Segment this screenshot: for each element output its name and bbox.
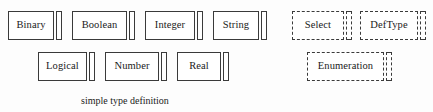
node-enumeration-box: Enumeration [307,52,384,81]
node-binary[interactable]: Binary [8,11,62,40]
node-select[interactable]: Select [292,11,352,40]
node-logical-tab [89,52,95,81]
node-logical-box: Logical [38,52,87,81]
node-string-label: String [223,20,249,31]
simple-type-definition-group: Binary Boolean Integer String Logic [0,0,250,112]
node-integer-label: Integer [155,20,185,31]
node-integer-tab [197,11,203,40]
node-deftype[interactable]: DefType [360,11,426,40]
node-number-tab [161,52,167,81]
type-definition-group: Select DefType Enumeration type definiti… [275,0,433,112]
node-real[interactable]: Real [177,52,229,81]
node-number-box: Number [105,52,159,81]
node-select-tab [346,11,352,40]
node-select-box: Select [292,11,344,40]
node-string-box: String [213,11,259,40]
node-binary-box: Binary [8,11,54,40]
node-logical-label: Logical [46,61,79,72]
node-deftype-box: DefType [360,11,418,40]
node-number[interactable]: Number [105,52,167,81]
node-integer[interactable]: Integer [145,11,203,40]
node-real-box: Real [177,52,221,81]
node-integer-box: Integer [145,11,195,40]
simple-type-definition-caption: simple type definition [0,96,250,106]
node-binary-tab [56,11,62,40]
type-definition-diagram: Binary Boolean Integer String Logic [0,0,433,112]
node-boolean-label: Boolean [82,20,118,31]
node-boolean-box: Boolean [72,11,127,40]
node-string-tab [261,11,267,40]
node-logical[interactable]: Logical [38,52,95,81]
node-number-label: Number [114,61,149,72]
node-string[interactable]: String [213,11,267,40]
node-real-label: Real [189,61,209,72]
node-real-tab [223,52,229,81]
node-boolean-tab [129,11,135,40]
node-enumeration-label: Enumeration [318,61,373,72]
node-binary-label: Binary [16,20,45,31]
node-select-label: Select [305,20,331,31]
node-deftype-tab [420,11,426,40]
node-deftype-label: DefType [370,20,407,31]
node-enumeration-tab [386,52,392,81]
node-enumeration[interactable]: Enumeration [307,52,392,81]
node-boolean[interactable]: Boolean [72,11,135,40]
